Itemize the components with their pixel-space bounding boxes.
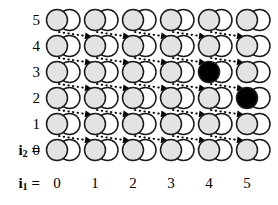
grid-cell-glyph[interactable] <box>161 114 195 135</box>
grid-cell-glyph[interactable] <box>85 114 119 135</box>
left-circle <box>237 114 258 135</box>
grid-cell-glyph[interactable] <box>85 140 119 161</box>
grid-cell-glyph[interactable] <box>199 114 233 135</box>
grid-cell-glyph[interactable] <box>161 140 195 161</box>
left-circle <box>47 88 68 109</box>
left-circle <box>123 88 144 109</box>
left-circle <box>85 36 106 57</box>
x-axis-equals: = <box>28 175 40 191</box>
diagram-canvas <box>0 0 278 205</box>
grid-cell-glyph[interactable] <box>123 114 157 135</box>
left-circle <box>161 36 182 57</box>
left-circle <box>161 140 182 161</box>
x-tick-1: 1 <box>85 176 105 191</box>
grid-cell-glyph[interactable] <box>237 140 271 161</box>
grid-cell-glyph[interactable] <box>123 140 157 161</box>
grid-cell-glyph[interactable] <box>199 36 233 57</box>
left-circle <box>161 62 182 83</box>
left-circle <box>85 88 106 109</box>
grid-cell-glyph[interactable] <box>85 10 119 31</box>
grid-cell-glyph[interactable] <box>47 140 81 161</box>
y-tick-5: 5 <box>26 13 40 28</box>
y-tick-0: 0 <box>26 143 40 158</box>
x-axis-title: i1 = <box>0 176 40 192</box>
x-tick-5: 5 <box>237 176 257 191</box>
x-tick-4: 4 <box>199 176 219 191</box>
grid-cell-glyph[interactable] <box>161 88 195 109</box>
grid-cell-glyph[interactable] <box>199 10 233 31</box>
left-circle <box>85 10 106 31</box>
diagram-figure: 5 4 3 2 1 i2 = 0 i1 = 0 1 2 3 4 5 <box>0 0 278 205</box>
x-tick-0: 0 <box>47 176 67 191</box>
grid-cell-glyph[interactable] <box>85 36 119 57</box>
left-circle <box>237 88 258 109</box>
grid-cell-glyph[interactable] <box>199 88 233 109</box>
grid-cell-glyph[interactable] <box>123 10 157 31</box>
left-circle <box>237 140 258 161</box>
left-circle <box>85 62 106 83</box>
left-circle <box>123 114 144 135</box>
grid-cell-glyph[interactable] <box>237 36 271 57</box>
grid-cell-glyph[interactable] <box>161 36 195 57</box>
left-circle <box>199 36 220 57</box>
grid-cell-glyph[interactable] <box>237 10 271 31</box>
grid-cell-glyph[interactable] <box>47 114 81 135</box>
left-circle <box>199 62 220 83</box>
left-circle <box>123 10 144 31</box>
left-circle <box>123 36 144 57</box>
grid-cell-glyph[interactable] <box>237 62 271 83</box>
left-circle <box>47 62 68 83</box>
cell-group <box>47 10 271 161</box>
grid-cell-glyph[interactable] <box>161 10 195 31</box>
grid-cell-glyph[interactable] <box>47 62 81 83</box>
grid-cell-glyph[interactable] <box>47 10 81 31</box>
left-circle <box>161 114 182 135</box>
left-circle <box>237 10 258 31</box>
left-circle <box>47 10 68 31</box>
y-tick-3: 3 <box>26 65 40 80</box>
left-circle <box>161 10 182 31</box>
left-circle <box>237 62 258 83</box>
left-circle <box>161 88 182 109</box>
grid-cell-glyph[interactable] <box>199 62 233 83</box>
left-circle <box>199 88 220 109</box>
left-circle <box>85 140 106 161</box>
left-circle <box>199 114 220 135</box>
grid-cell-glyph[interactable] <box>123 36 157 57</box>
grid-cell-glyph[interactable] <box>85 62 119 83</box>
y-tick-2: 2 <box>26 91 40 106</box>
x-tick-3: 3 <box>161 176 181 191</box>
grid-cell-glyph[interactable] <box>85 88 119 109</box>
grid-cell-glyph[interactable] <box>237 88 271 109</box>
left-circle <box>123 62 144 83</box>
grid-cell-glyph[interactable] <box>47 88 81 109</box>
left-circle <box>85 114 106 135</box>
grid-cell-glyph[interactable] <box>47 36 81 57</box>
grid-cell-glyph[interactable] <box>237 114 271 135</box>
left-circle <box>47 140 68 161</box>
grid-cell-glyph[interactable] <box>199 140 233 161</box>
x-tick-2: 2 <box>123 176 143 191</box>
left-circle <box>47 36 68 57</box>
y-tick-1: 1 <box>26 117 40 132</box>
left-circle <box>123 140 144 161</box>
grid-cell-glyph[interactable] <box>123 62 157 83</box>
left-circle <box>199 140 220 161</box>
grid-cell-glyph[interactable] <box>123 88 157 109</box>
grid-cell-glyph[interactable] <box>161 62 195 83</box>
left-circle <box>47 114 68 135</box>
y-tick-4: 4 <box>26 39 40 54</box>
left-circle <box>237 36 258 57</box>
left-circle <box>199 10 220 31</box>
